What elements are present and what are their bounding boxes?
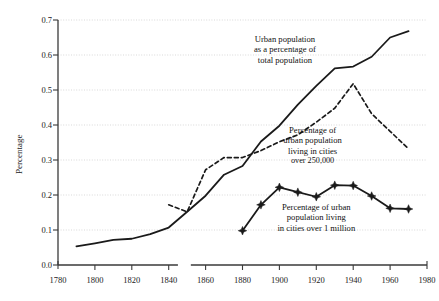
y-tick-label: 0.3 [22, 155, 52, 165]
x-tick-label: 1960 [373, 275, 407, 285]
annotation-over-250k: Percentage of urban population living in… [253, 125, 373, 167]
annotation-over-1m: Percentage of urban population living in… [256, 202, 376, 233]
series-marker-star [312, 192, 321, 201]
y-tick-label: 0.1 [22, 225, 52, 235]
series-marker-star [404, 205, 413, 214]
x-tick-label: 1800 [78, 275, 112, 285]
x-tick-label: 1900 [262, 275, 296, 285]
chart-container: Percentage 0.00.10.20.30.40.50.60.7 1780… [0, 0, 439, 301]
x-tick-label: 1780 [41, 275, 75, 285]
y-tick-label: 0.2 [22, 190, 52, 200]
y-tick-label: 0.0 [22, 260, 52, 270]
x-tick-label: 1920 [299, 275, 333, 285]
y-tick-label: 0.4 [22, 120, 52, 130]
y-tick-label: 0.6 [22, 50, 52, 60]
x-tick-label: 1940 [336, 275, 370, 285]
x-tick-label: 1880 [226, 275, 260, 285]
x-tick-label: 1860 [189, 275, 223, 285]
x-tick-label: 1820 [115, 275, 149, 285]
annotation-suffix: over 250,000 [253, 156, 373, 166]
y-tick-label: 0.5 [22, 85, 52, 95]
series-marker-star [349, 181, 358, 190]
annotation-urban-total: Urban population as a percentage of tota… [225, 34, 345, 65]
x-tick-label: 1980 [410, 275, 439, 285]
y-tick-label: 0.7 [22, 15, 52, 25]
series-marker-star [330, 181, 339, 190]
chart-canvas [0, 0, 439, 301]
x-tick-label: 1840 [152, 275, 186, 285]
